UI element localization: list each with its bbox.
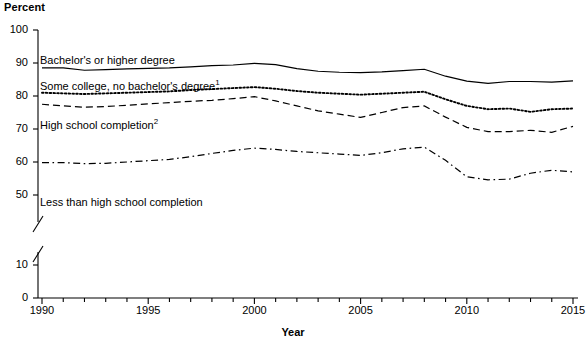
plot-area: [0, 0, 586, 345]
series-line-2: [42, 97, 573, 133]
series-line-0: [42, 63, 573, 83]
series-line-3: [42, 147, 573, 180]
employment-rate-line-chart: Percent Year 0105060708090100 1990199520…: [0, 0, 586, 345]
